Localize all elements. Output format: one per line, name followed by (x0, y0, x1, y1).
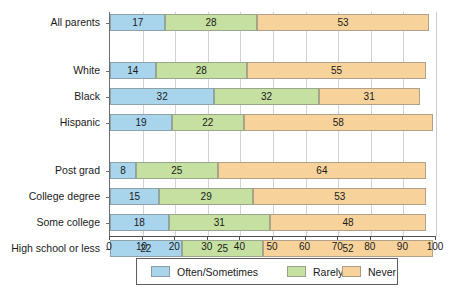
bar-segment: 29 (159, 188, 254, 205)
bar-value-label: 18 (134, 218, 145, 228)
x-tick (109, 236, 110, 240)
bar-value-label: 58 (333, 118, 344, 128)
category-tick (106, 123, 110, 124)
bar-row: 192258 (110, 114, 436, 131)
bar-segment: 19 (110, 114, 172, 131)
x-tick-label: 80 (364, 241, 375, 252)
legend-label: Never (368, 266, 396, 278)
x-tick (435, 236, 436, 240)
bar-segment: 53 (257, 14, 430, 31)
bar-value-label: 28 (196, 66, 207, 76)
bar-segment: 28 (165, 14, 256, 31)
bar-value-label: 14 (127, 66, 138, 76)
category-tick (106, 171, 110, 172)
category-tick (106, 97, 110, 98)
bar-segment: 15 (110, 188, 159, 205)
legend-swatch (342, 266, 361, 277)
x-tick (337, 236, 338, 240)
bar-value-label: 29 (201, 192, 212, 202)
x-tick (370, 236, 371, 240)
category-label: Black (74, 91, 100, 102)
x-tick-label: 100 (427, 241, 444, 252)
bar-value-label: 32 (157, 92, 168, 102)
bar-value-label: 22 (202, 118, 213, 128)
bar-segment: 8 (110, 162, 136, 179)
x-tick-label: 20 (169, 241, 180, 252)
bar-segment: 25 (182, 240, 264, 257)
bar-segment: 32 (214, 88, 318, 105)
bar-value-label: 64 (316, 166, 327, 176)
category-label: White (73, 65, 100, 76)
legend-swatch (287, 266, 306, 277)
bar-value-label: 31 (364, 92, 375, 102)
category-tick (106, 223, 110, 224)
bar-value-label: 19 (135, 118, 146, 128)
legend-item[interactable]: Never (342, 266, 396, 278)
bar-row: 82564 (110, 162, 436, 179)
bar-value-label: 55 (331, 66, 342, 76)
x-tick-label: 60 (299, 241, 310, 252)
category-label: All parents (50, 17, 100, 28)
legend-swatch (151, 266, 170, 277)
bar-segment: 58 (244, 114, 433, 131)
bar-value-label: 25 (171, 166, 182, 176)
category-label: Hispanic (60, 117, 100, 128)
category-label: Post grad (55, 165, 100, 176)
x-tick (174, 236, 175, 240)
legend-item[interactable]: Often/Sometimes (151, 266, 258, 278)
category-tick (106, 197, 110, 198)
x-tick-label: 50 (266, 241, 277, 252)
bar-segment: 14 (110, 62, 156, 79)
x-tick (207, 236, 208, 240)
x-tick (239, 236, 240, 240)
x-tick-label: 0 (106, 241, 112, 252)
x-tick-label: 70 (332, 241, 343, 252)
bar-segment: 48 (270, 214, 426, 231)
category-label: High school or less (11, 243, 100, 254)
bar-segment: 32 (110, 88, 214, 105)
bar-segment: 18 (110, 214, 169, 231)
plot-wrapper: All parentsWhiteBlackHispanicPost gradCo… (0, 0, 459, 252)
x-tick (272, 236, 273, 240)
chart-legend: Often/SometimesRarelyNever (136, 258, 398, 285)
x-tick (402, 236, 403, 240)
x-tick-label: 10 (136, 241, 147, 252)
bar-value-label: 53 (338, 18, 349, 28)
category-label: Some college (36, 217, 100, 228)
bar-segment: 55 (247, 62, 426, 79)
legend-label: Rarely (313, 266, 343, 278)
bar-value-label: 8 (120, 166, 126, 176)
bar-value-label: 48 (342, 218, 353, 228)
category-tick (106, 23, 110, 24)
x-tick (142, 236, 143, 240)
plot-area: 1728531428553232311922588256415295318314… (109, 12, 437, 236)
bar-row: 323231 (110, 88, 436, 105)
bar-segment: 64 (218, 162, 427, 179)
bar-row: 152953 (110, 188, 436, 205)
bar-value-label: 32 (261, 92, 272, 102)
x-tick-label: 40 (234, 241, 245, 252)
bar-segment: 25 (136, 162, 218, 179)
bar-value-label: 15 (129, 192, 140, 202)
bar-value-label: 53 (334, 192, 345, 202)
x-tick-label: 90 (397, 241, 408, 252)
legend-label: Often/Sometimes (177, 266, 258, 278)
bar-value-label: 31 (214, 218, 225, 228)
x-tick (305, 236, 306, 240)
bar-value-label: 25 (217, 244, 228, 254)
category-axis-labels: All parentsWhiteBlackHispanicPost gradCo… (0, 0, 104, 240)
legend-item[interactable]: Rarely (287, 266, 343, 278)
bar-segment: 31 (319, 88, 420, 105)
bar-row: 183148 (110, 214, 436, 231)
bar-segment: 31 (169, 214, 270, 231)
bar-row: 142855 (110, 62, 436, 79)
bar-value-label: 28 (205, 18, 216, 28)
bar-segment: 28 (156, 62, 247, 79)
category-label: College degree (29, 191, 100, 202)
bar-segment: 17 (110, 14, 165, 31)
bar-segment: 53 (253, 188, 426, 205)
stacked-bar-chart: All parentsWhiteBlackHispanicPost gradCo… (0, 0, 459, 294)
bar-segment: 22 (172, 114, 244, 131)
bar-row: 172853 (110, 14, 436, 31)
x-tick-label: 30 (201, 241, 212, 252)
